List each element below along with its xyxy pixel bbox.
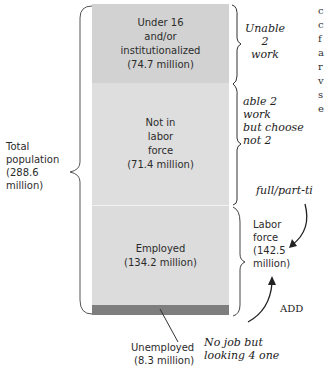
note-able-but-choose-not: able 2 work but choose not 2 <box>243 95 304 147</box>
note-line: work <box>243 108 304 121</box>
arrow-icon <box>248 283 272 322</box>
note-no-job-but-looking: No job but looking 4 one <box>204 336 279 362</box>
label-line: force <box>253 231 290 244</box>
cut-off-text-column: c c f a r v s e <box>318 4 324 116</box>
unemployed-label: Unemployed (8.3 million) <box>131 341 194 367</box>
cut-char: v <box>318 74 324 88</box>
label-line: (288.6 <box>6 166 59 179</box>
label-line: Total <box>6 140 59 153</box>
cut-char: e <box>318 102 324 116</box>
note-line: but choose <box>243 121 304 134</box>
labor-force-brace-icon <box>233 207 245 316</box>
note-add: ADD <box>280 302 303 315</box>
labor-force-label: Labor force (142.5 million) <box>253 218 290 270</box>
label-line: (8.3 million) <box>131 354 194 367</box>
note-line: Unable <box>245 22 285 35</box>
note-line: No job but <box>204 336 279 349</box>
cut-char: r <box>318 60 324 74</box>
label-line: Labor <box>253 218 290 231</box>
label-line: (142.5 <box>253 244 290 257</box>
cut-char: f <box>318 32 324 46</box>
arrow-icon <box>292 204 307 245</box>
under16-brace-icon <box>232 5 241 84</box>
cut-char: a <box>318 46 324 60</box>
arrowhead-icon <box>268 276 276 285</box>
note-line: 2 <box>245 35 285 48</box>
label-line: Unemployed <box>131 341 194 354</box>
note-unable-to-work: Unable 2 work <box>245 22 285 61</box>
note-full-part-time: full/part-ti <box>256 184 313 197</box>
note-line: work <box>245 48 285 61</box>
not-in-labor-brace-icon <box>233 84 241 205</box>
label-line: million) <box>253 257 290 270</box>
cut-char: c <box>318 18 324 32</box>
total-brace-icon <box>70 6 92 314</box>
unemployed-leader-line <box>160 309 178 342</box>
cut-char: c <box>318 4 324 18</box>
note-line: not 2 <box>243 134 304 147</box>
total-population-label: Total population (288.6 million) <box>6 140 59 192</box>
label-line: million) <box>6 179 59 192</box>
note-line: looking 4 one <box>204 349 279 362</box>
label-line: population <box>6 153 59 166</box>
note-line: able 2 <box>243 95 304 108</box>
cut-char: s <box>318 88 324 102</box>
